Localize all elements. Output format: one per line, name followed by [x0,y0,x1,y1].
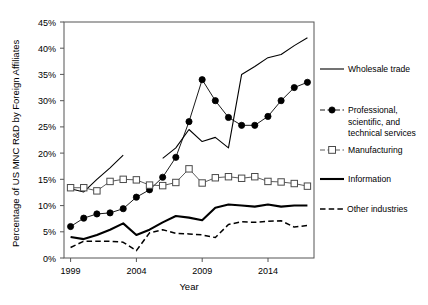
data-point-marker [107,210,113,216]
data-point-marker [133,177,139,183]
y-axis-title: Percentage of US MNC R&D by Foreign Affi… [10,39,21,247]
x-tick-label: 2014 [258,266,278,276]
data-point-marker [291,180,297,186]
y-tick-label: 25% [38,122,56,132]
data-point-marker [146,182,152,188]
x-axis-title: Year [179,281,198,292]
y-tick-label: 40% [38,44,56,54]
data-point-marker [133,194,139,200]
data-point-marker [107,178,113,184]
y-tick-label: 45% [38,18,56,28]
data-point-marker [67,223,73,229]
x-tick-label: 2004 [126,266,146,276]
y-tick-label: 20% [38,149,56,159]
data-point-marker [212,175,218,181]
x-tick-label: 2009 [192,266,212,276]
data-point-marker [186,119,192,125]
data-point-marker [225,174,231,180]
data-point-marker [173,154,179,160]
y-tick-label: 30% [38,96,56,106]
legend-label-other-industries: Other industries [347,204,408,214]
legend-label-professional-line3: technical services [348,128,416,138]
y-tick-label: 0% [43,254,56,264]
data-point-marker [252,174,258,180]
data-point-marker [159,182,165,188]
data-point-marker [225,114,231,120]
chart-svg: Percentage of US MNC R&D by Foreign Affi… [0,0,428,305]
y-tick-label: 35% [38,70,56,80]
data-point-marker [304,79,310,85]
data-point-marker [291,84,297,90]
y-tick-label: 15% [38,175,56,185]
data-point-marker [67,185,73,191]
legend-label-information: Information [348,174,391,184]
x-tick-label: 1999 [61,266,81,276]
legend-marker-open-square-icon [329,147,336,154]
data-point-marker [160,174,166,180]
legend-label-professional-line1: Professional, [348,105,398,115]
y-tick-label: 10% [38,201,56,211]
data-point-marker [186,166,192,172]
data-point-marker [94,188,100,194]
data-point-marker [265,113,271,119]
legend-label-manufacturing: Manufacturing [348,145,403,155]
data-point-marker [239,122,245,128]
data-point-marker [304,183,310,189]
data-point-marker [278,98,284,104]
data-point-marker [81,215,87,221]
data-point-marker [120,206,126,212]
legend-label-professional-line2: scientific, and [348,117,400,127]
data-point-marker [238,175,244,181]
chart-figure: Percentage of US MNC R&D by Foreign Affi… [0,0,428,305]
data-point-marker [173,179,179,185]
legend-item-manufacturing: Manufacturing [320,145,403,155]
data-point-marker [252,122,258,128]
y-tick-label: 5% [43,227,56,237]
data-point-marker [212,98,218,104]
data-point-marker [199,180,205,186]
data-point-marker [81,185,87,191]
data-point-marker [120,176,126,182]
data-point-marker [265,178,271,184]
data-point-marker [199,77,205,83]
legend-label-wholesale-trade: Wholesale trade [348,64,410,74]
legend-marker-filled-circle-icon [329,107,335,113]
data-point-marker [94,211,100,217]
data-point-marker [278,179,284,185]
